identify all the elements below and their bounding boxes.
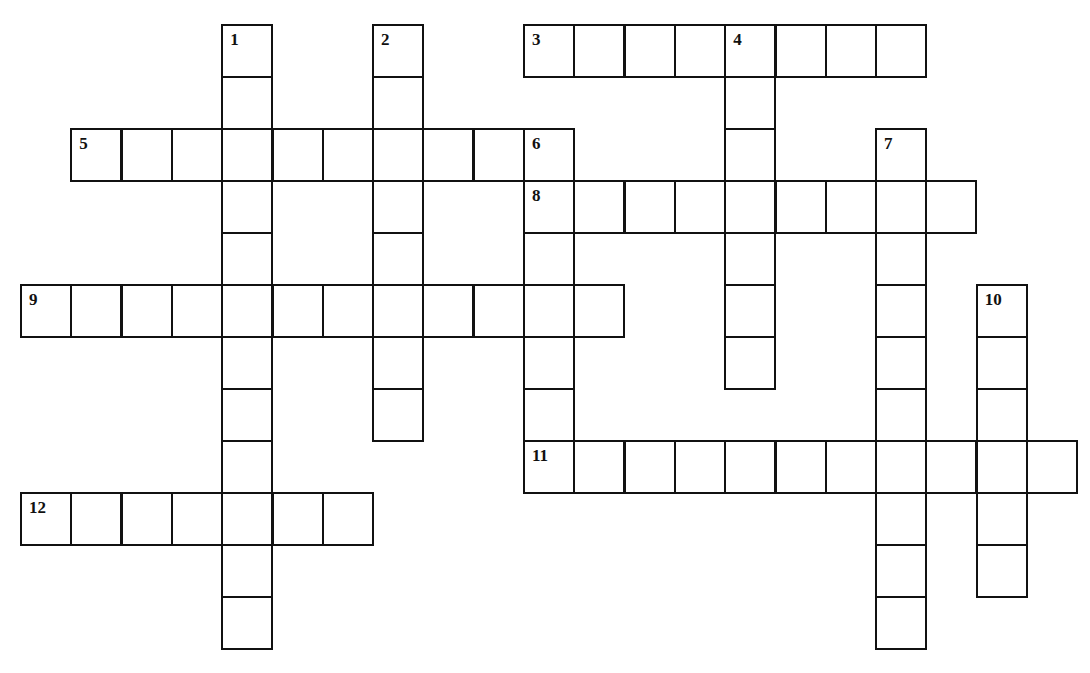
crossword-cell[interactable]: [825, 180, 877, 234]
crossword-cell[interactable]: [875, 388, 927, 442]
crossword-cell[interactable]: [875, 24, 927, 78]
crossword-cell[interactable]: [825, 24, 877, 78]
crossword-cell[interactable]: 4: [724, 24, 776, 78]
crossword-cell[interactable]: 12: [20, 492, 72, 546]
crossword-cell[interactable]: [221, 232, 273, 286]
crossword-cell[interactable]: [121, 284, 173, 338]
crossword-cell[interactable]: 10: [976, 284, 1028, 338]
crossword-cell[interactable]: [221, 284, 273, 338]
crossword-cell[interactable]: [976, 336, 1028, 390]
crossword-cell[interactable]: [976, 388, 1028, 442]
crossword-cell[interactable]: [724, 232, 776, 286]
crossword-cell[interactable]: 8: [523, 180, 575, 234]
crossword-cell[interactable]: [272, 128, 324, 182]
crossword-cell[interactable]: [775, 440, 827, 494]
crossword-cell[interactable]: [221, 76, 273, 130]
crossword-cell[interactable]: [976, 492, 1028, 546]
crossword-cell[interactable]: 5: [70, 128, 122, 182]
crossword-cell[interactable]: [171, 284, 223, 338]
crossword-cell[interactable]: [372, 128, 424, 182]
crossword-cell[interactable]: [221, 388, 273, 442]
crossword-cell[interactable]: [775, 24, 827, 78]
crossword-cell[interactable]: [523, 388, 575, 442]
crossword-cell[interactable]: [674, 24, 726, 78]
crossword-cell[interactable]: [925, 440, 977, 494]
crossword-cell[interactable]: [724, 284, 776, 338]
crossword-cell[interactable]: [674, 180, 726, 234]
crossword-cell[interactable]: 3: [523, 24, 575, 78]
crossword-cell[interactable]: [372, 388, 424, 442]
crossword-cell[interactable]: [825, 440, 877, 494]
clue-number: 11: [532, 447, 548, 464]
crossword-cell[interactable]: [624, 440, 676, 494]
crossword-cell[interactable]: [221, 336, 273, 390]
crossword-cell[interactable]: 9: [20, 284, 72, 338]
crossword-cell[interactable]: [121, 492, 173, 546]
crossword-cell[interactable]: [221, 128, 273, 182]
clue-number: 1: [230, 31, 239, 48]
crossword-cell[interactable]: [875, 232, 927, 286]
crossword-cell[interactable]: [523, 284, 575, 338]
crossword-cell[interactable]: [372, 76, 424, 130]
crossword-cell[interactable]: [422, 284, 474, 338]
crossword-cell[interactable]: [473, 284, 525, 338]
crossword-cell[interactable]: [573, 180, 625, 234]
crossword-cell[interactable]: [121, 128, 173, 182]
crossword-cell[interactable]: [724, 128, 776, 182]
crossword-cell[interactable]: [322, 492, 374, 546]
crossword-cell[interactable]: [724, 76, 776, 130]
crossword-cell[interactable]: [976, 440, 1028, 494]
crossword-cell[interactable]: [171, 492, 223, 546]
crossword-cell[interactable]: [674, 440, 726, 494]
crossword-cell[interactable]: [875, 492, 927, 546]
crossword-cell[interactable]: [70, 492, 122, 546]
crossword-cell[interactable]: 2: [372, 24, 424, 78]
crossword-cell[interactable]: [372, 284, 424, 338]
crossword-cell[interactable]: [523, 336, 575, 390]
crossword-cell[interactable]: [875, 284, 927, 338]
crossword-cell[interactable]: [875, 440, 927, 494]
crossword-cell[interactable]: [221, 180, 273, 234]
crossword-cell[interactable]: [523, 232, 575, 286]
crossword-cell[interactable]: [624, 24, 676, 78]
crossword-cell[interactable]: [875, 336, 927, 390]
crossword-cell[interactable]: 11: [523, 440, 575, 494]
crossword-cell[interactable]: [1026, 440, 1078, 494]
crossword-cell[interactable]: [221, 492, 273, 546]
crossword-cell[interactable]: 6: [523, 128, 575, 182]
crossword-cell[interactable]: [925, 180, 977, 234]
crossword-cell[interactable]: [573, 440, 625, 494]
crossword-cell[interactable]: [724, 336, 776, 390]
crossword-cell[interactable]: [875, 544, 927, 598]
crossword-cell[interactable]: [573, 284, 625, 338]
crossword-cell[interactable]: [221, 440, 273, 494]
crossword-cell[interactable]: 7: [875, 128, 927, 182]
crossword-cell[interactable]: [422, 128, 474, 182]
crossword-cell[interactable]: [372, 180, 424, 234]
crossword-cell[interactable]: [372, 232, 424, 286]
crossword-cell[interactable]: [775, 180, 827, 234]
crossword-cell[interactable]: [875, 180, 927, 234]
crossword-cell[interactable]: [322, 128, 374, 182]
crossword-cell[interactable]: [976, 544, 1028, 598]
crossword-cell[interactable]: [221, 596, 273, 650]
clue-number: 4: [733, 31, 742, 48]
crossword-cell[interactable]: [272, 492, 324, 546]
clue-number: 6: [532, 135, 541, 152]
clue-number: 7: [884, 135, 893, 152]
crossword-cell[interactable]: [272, 284, 324, 338]
crossword-cell[interactable]: 1: [221, 24, 273, 78]
crossword-cell[interactable]: [724, 180, 776, 234]
crossword-cell[interactable]: [724, 440, 776, 494]
crossword-cell[interactable]: [171, 128, 223, 182]
crossword-grid: 123456811791012: [0, 0, 1090, 673]
crossword-cell[interactable]: [221, 544, 273, 598]
crossword-cell[interactable]: [70, 284, 122, 338]
crossword-cell[interactable]: [473, 128, 525, 182]
clue-number: 3: [532, 31, 541, 48]
crossword-cell[interactable]: [875, 596, 927, 650]
crossword-cell[interactable]: [573, 24, 625, 78]
crossword-cell[interactable]: [624, 180, 676, 234]
crossword-cell[interactable]: [322, 284, 374, 338]
crossword-cell[interactable]: [372, 336, 424, 390]
